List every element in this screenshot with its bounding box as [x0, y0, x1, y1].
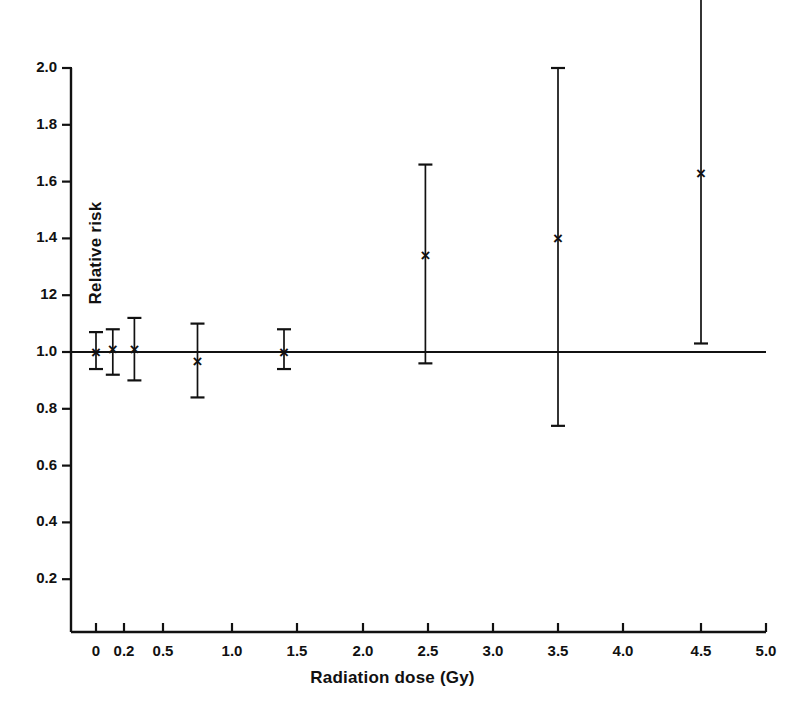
data-marker-x: × — [193, 352, 203, 371]
x-axis-tick-label: 0.5 — [133, 642, 193, 659]
x-axis-tick-label: 4.5 — [671, 642, 731, 659]
x-axis-tick-label: 5.0 — [736, 642, 785, 659]
data-point-errorbar: × — [418, 165, 432, 364]
x-axis-tick-label: 1.5 — [267, 642, 327, 659]
data-marker-x: × — [108, 340, 118, 359]
data-point-errorbar: × — [127, 318, 141, 380]
y-axis-tick-label: 1.6 — [8, 172, 57, 189]
data-marker-x: × — [420, 246, 430, 265]
data-point-errorbar: × — [551, 68, 565, 426]
y-axis-tick-label: 0.8 — [8, 399, 57, 416]
data-marker-x: × — [91, 343, 101, 362]
x-axis-tick-label: 2.0 — [333, 642, 393, 659]
data-point-errorbar: × — [191, 324, 205, 398]
x-axis-tick-label: 3.0 — [463, 642, 523, 659]
x-axis-tick-label: 2.5 — [398, 642, 458, 659]
data-point-errorbar: × — [277, 329, 291, 369]
y-axis-title: Relative risk — [86, 163, 106, 343]
relative-risk-scatter-chart: ×××××××× Relative risk Radiation dose (G… — [0, 0, 785, 705]
y-axis-tick-label: 1.0 — [8, 342, 57, 359]
data-marker-x: × — [553, 229, 563, 248]
x-axis-tick-label: 3.5 — [528, 642, 588, 659]
data-point-errorbar: × — [694, 0, 708, 343]
data-marker-x: × — [696, 164, 706, 183]
y-axis-tick-label: 0.4 — [8, 512, 57, 529]
x-axis-tick-label: 4.0 — [593, 642, 653, 659]
x-axis-tick-label: 1.0 — [202, 642, 262, 659]
y-axis-tick-label: 2.0 — [8, 58, 57, 75]
y-axis-tick-label: 0.2 — [8, 569, 57, 586]
plot-area: ×××××××× — [0, 0, 785, 705]
data-point-errorbar: × — [106, 329, 120, 374]
y-axis-tick-label: 0.6 — [8, 456, 57, 473]
x-axis-title: Radiation dose (Gy) — [0, 668, 785, 688]
data-marker-x: × — [129, 340, 139, 359]
y-axis-tick-label: 1.8 — [8, 115, 57, 132]
data-marker-x: × — [279, 343, 289, 362]
y-axis-tick-label: 12 — [8, 285, 57, 302]
y-axis-tick-label: 1.4 — [8, 228, 57, 245]
